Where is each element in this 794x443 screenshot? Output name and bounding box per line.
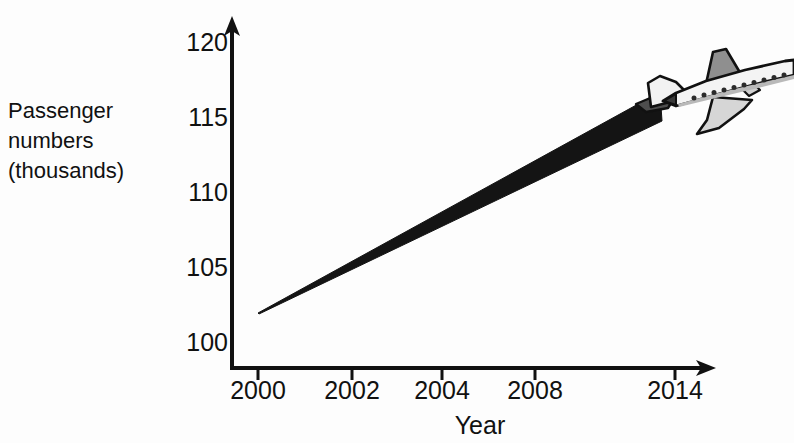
x-axis-line xyxy=(230,360,716,376)
plot-drawing-layer xyxy=(0,0,794,443)
trend-wedge xyxy=(258,92,662,314)
y-axis-line xyxy=(224,16,240,369)
passenger-numbers-figure: Passenger numbers (thousands) 120 115 11… xyxy=(0,0,794,443)
